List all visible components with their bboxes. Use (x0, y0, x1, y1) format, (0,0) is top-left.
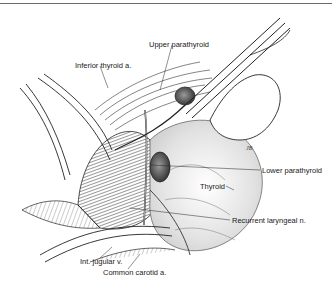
label-internal-jugular-vein: Int. jugular v. (80, 258, 122, 266)
retracting-finger (210, 30, 290, 140)
strap-muscles (22, 131, 160, 229)
label-recurrent-laryngeal-nerve: Recurrent laryngeal n. (232, 217, 306, 225)
upper-parathyroid-gland (175, 87, 195, 105)
artist-signature: JB (246, 145, 253, 151)
lower-parathyroid-gland (150, 152, 170, 182)
label-inferior-thyroid-artery: Inferior thyroid a. (75, 62, 131, 70)
label-common-carotid-artery: Common carotid a. (103, 269, 166, 277)
label-thyroid: Thyroid (200, 183, 225, 191)
label-lower-parathyroid: Lower parathyroid (262, 167, 322, 175)
label-upper-parathyroid: Upper parathyroid (149, 41, 209, 49)
